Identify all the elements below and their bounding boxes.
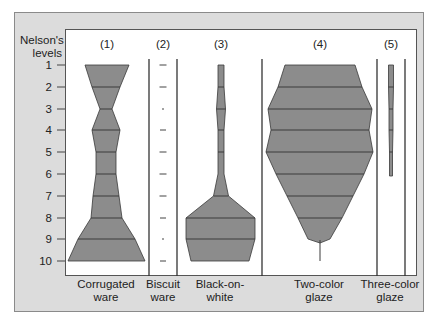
- label-line: glaze: [350, 291, 430, 304]
- two-color-glaze-shape: [266, 65, 373, 261]
- label-line: Black-on-: [180, 278, 260, 291]
- three-color-glaze-shape: [389, 65, 394, 176]
- label-line: Two-color: [279, 278, 359, 291]
- black-on-white-shape: [186, 65, 255, 261]
- biscuit-ware-marks: [160, 65, 167, 261]
- corrugated-ware-shape: [68, 65, 145, 261]
- battleship-chart: [0, 0, 435, 323]
- label-line: glaze: [279, 291, 359, 304]
- label-line: white: [180, 291, 260, 304]
- column-label-black-on-white: Black-on- white: [180, 278, 260, 304]
- column-label-three-color: Three-color glaze: [350, 278, 430, 304]
- y-axis-ticks: [57, 65, 65, 261]
- label-line: Three-color: [350, 278, 430, 291]
- column-label-two-color: Two-color glaze: [279, 278, 359, 304]
